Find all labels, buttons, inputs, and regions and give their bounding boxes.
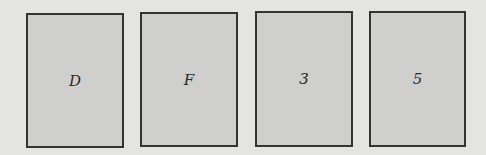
- card-3[interactable]: 3: [255, 11, 353, 147]
- card-label: 3: [299, 70, 309, 88]
- card-5[interactable]: 5: [369, 11, 466, 147]
- card-label: F: [184, 71, 194, 89]
- card-label: 5: [413, 70, 423, 88]
- card-label: D: [69, 72, 81, 90]
- card-f[interactable]: F: [140, 12, 238, 147]
- card-d[interactable]: D: [26, 13, 124, 148]
